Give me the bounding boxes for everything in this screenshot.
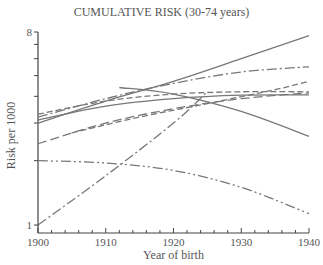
line-chart: 1819001910192019301940: [0, 0, 323, 265]
y-tick-label: 1: [27, 219, 33, 231]
x-tick-label: 1900: [27, 236, 50, 248]
x-tick-label: 1910: [95, 236, 118, 248]
series-line-solid-curve-flat: [38, 95, 309, 120]
series-line-dashed-rising: [72, 81, 309, 132]
x-tick-label: 1930: [230, 236, 253, 248]
series-line-long-dashed-rising: [38, 93, 309, 144]
x-tick-label: 1920: [163, 236, 186, 248]
x-tick-label: 1940: [298, 236, 321, 248]
y-tick-label: 8: [27, 26, 33, 38]
series-line-dashdot-steep: [38, 92, 207, 225]
series-line-dashdotdot-falling: [38, 161, 309, 214]
